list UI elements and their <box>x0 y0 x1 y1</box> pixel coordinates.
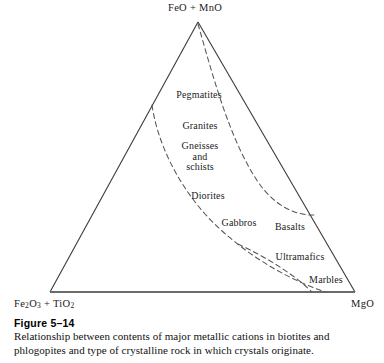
field-label-marbles: Marbles <box>309 274 343 285</box>
triangle-left-limb <box>50 22 198 292</box>
field-label-pegmatites: Pegmatites <box>176 89 221 100</box>
field-label-schists: schists <box>186 161 214 172</box>
figure-caption-text: Relationship between contents of major m… <box>14 330 374 357</box>
left-boundary-curve <box>152 105 325 292</box>
field-label-granites: Granites <box>182 120 217 131</box>
field-label-and: and <box>193 151 208 162</box>
figure-container: FeO + MnO Fe2O3 + TiO2 MgO Pegmatites Gr… <box>0 0 384 363</box>
field-label-gneisses: Gneisses <box>182 140 219 151</box>
field-label-basalts: Basalts <box>275 221 305 232</box>
vertex-label-mgo: MgO <box>351 298 374 309</box>
vertex-label-feo-mno: FeO + MnO <box>168 2 222 13</box>
ternary-diagram: FeO + MnO Fe2O3 + TiO2 MgO Pegmatites Gr… <box>0 0 384 312</box>
field-label-gabbros: Gabbros <box>222 217 257 228</box>
field-label-gneisses-and-schists: Gneisses and schists <box>182 141 219 173</box>
field-label-ultramafics: Ultramafics <box>276 251 325 262</box>
figure-caption-block: Figure 5–14 Relationship between content… <box>14 317 374 357</box>
figure-number-label: Figure 5–14 <box>14 317 374 329</box>
vertex-label-fe2o3-tio2: Fe2O3 + TiO2 <box>14 298 75 310</box>
field-label-diorites: Diorites <box>191 190 224 201</box>
